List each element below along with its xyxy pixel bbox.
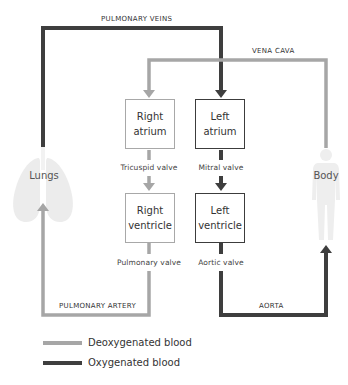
right-ventricle-box: Rightventricle — [125, 193, 175, 243]
pulmonary-artery-label: PULMONARY ARTERY — [59, 302, 136, 310]
mitral-valve-label: Mitral valve — [198, 163, 243, 172]
legend-oxygenated: Oxygenated blood — [43, 357, 180, 368]
right-ventricle-label-1: Right — [128, 203, 172, 218]
left-ventricle-label-2: ventricle — [198, 218, 242, 233]
legend-deoxygenated: Deoxygenated blood — [43, 337, 192, 348]
legend-oxygenated-label: Oxygenated blood — [88, 357, 180, 368]
left-atrium-box: Leftatrium — [195, 99, 245, 149]
legend-deoxygenated-label: Deoxygenated blood — [88, 337, 192, 348]
right-atrium-label-1: Right — [133, 109, 166, 124]
tricuspid-valve-label: Tricuspid valve — [120, 163, 177, 172]
right-atrium-box: Rightatrium — [125, 99, 175, 149]
left-ventricle-box: Leftventricle — [195, 193, 245, 243]
lungs-label: Lungs — [29, 170, 59, 181]
left-atrium-label-1: Left — [203, 109, 236, 124]
right-ventricle-label-2: ventricle — [128, 218, 172, 233]
right-atrium-label-2: atrium — [133, 124, 166, 139]
deoxygenated-swatch — [43, 341, 82, 345]
pulmonary-veins-label: PULMONARY VEINS — [101, 15, 172, 23]
aortic-valve-label: Aortic valve — [198, 258, 244, 267]
left-ventricle-label-1: Left — [198, 203, 242, 218]
body-label: Body — [313, 170, 338, 181]
body-icon — [312, 149, 340, 240]
vena-cava-label: VENA CAVA — [252, 47, 295, 55]
pulmonary-valve-label: Pulmonary valve — [117, 258, 181, 267]
aorta-label: AORTA — [259, 302, 284, 310]
left-atrium-label-2: atrium — [203, 124, 236, 139]
oxygenated-swatch — [43, 361, 82, 365]
